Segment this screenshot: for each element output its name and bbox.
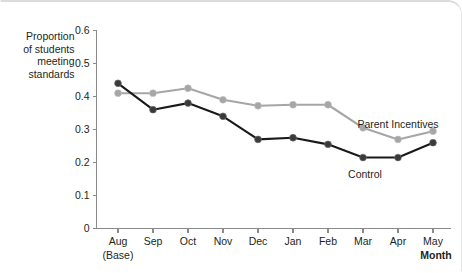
data-point-ctrl bbox=[360, 154, 367, 161]
y-axis-tick-label: 0.3 bbox=[75, 123, 90, 135]
data-point-treat bbox=[220, 96, 227, 103]
x-axis-tick-label: Jan bbox=[285, 235, 302, 247]
x-axis-tick-label: Aug bbox=[109, 235, 128, 247]
y-axis-title-line: meeting bbox=[37, 55, 75, 67]
line-chart: 00.10.20.30.40.50.6Aug(Base)SepOctNovDec… bbox=[1, 2, 462, 273]
x-axis-tick-label: Mar bbox=[354, 235, 373, 247]
x-axis-tick-label: Oct bbox=[180, 235, 196, 247]
y-axis-tick-label: 0.5 bbox=[75, 57, 90, 69]
y-axis-tick-label: 0.4 bbox=[75, 90, 90, 102]
x-axis-tick-label: Nov bbox=[214, 235, 233, 247]
data-point-ctrl bbox=[325, 141, 332, 148]
data-point-treat bbox=[290, 101, 297, 108]
data-point-treat bbox=[150, 90, 157, 97]
data-point-ctrl bbox=[185, 100, 192, 107]
x-axis-tick-label: Apr bbox=[390, 235, 407, 247]
data-point-treat bbox=[185, 85, 192, 92]
x-axis-tick-label: Dec bbox=[249, 235, 268, 247]
data-point-treat bbox=[325, 101, 332, 108]
x-axis-title: Month bbox=[420, 249, 452, 261]
series-label-control: Control bbox=[348, 168, 382, 180]
x-axis-tick-sublabel: (Base) bbox=[103, 249, 134, 261]
x-axis-tick-label: May bbox=[423, 235, 444, 247]
series-label-parent-incentives: Parent Incentives bbox=[357, 118, 438, 130]
y-axis-tick-label: 0.2 bbox=[75, 156, 90, 168]
data-point-treat bbox=[255, 102, 262, 109]
y-axis-tick-label: 0.6 bbox=[75, 24, 90, 36]
data-point-ctrl bbox=[255, 136, 262, 143]
y-axis-title-line: standards bbox=[28, 68, 74, 80]
x-axis-tick-label: Feb bbox=[319, 235, 337, 247]
y-axis-title-line: of students bbox=[23, 43, 74, 55]
data-point-ctrl bbox=[220, 113, 227, 120]
x-axis-tick-label: Sep bbox=[144, 235, 163, 247]
data-point-treat bbox=[395, 136, 402, 143]
data-point-ctrl bbox=[395, 154, 402, 161]
figure-card: 00.10.20.30.40.50.6Aug(Base)SepOctNovDec… bbox=[0, 0, 462, 273]
data-point-ctrl bbox=[430, 139, 437, 146]
data-point-ctrl bbox=[115, 80, 122, 87]
data-point-treat bbox=[115, 90, 122, 97]
series-line-treat bbox=[118, 88, 433, 139]
data-point-ctrl bbox=[150, 106, 157, 113]
y-axis-tick-label: 0 bbox=[84, 222, 90, 234]
data-point-ctrl bbox=[290, 134, 297, 141]
y-axis-tick-label: 0.1 bbox=[75, 189, 90, 201]
y-axis-title-line: Proportion bbox=[26, 30, 75, 42]
